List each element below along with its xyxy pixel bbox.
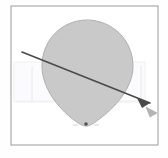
- canvas-svg-surface[interactable]: [0, 0, 168, 158]
- anchor-point-bottom[interactable]: [84, 122, 88, 126]
- shape-canvas[interactable]: teardrop-balloon-shape direction-arrow c…: [0, 0, 168, 158]
- anchor-point-top[interactable]: [87, 19, 89, 21]
